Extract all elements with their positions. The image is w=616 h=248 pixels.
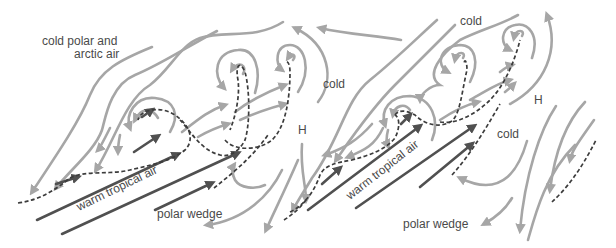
cold-flow-arrow — [96, 22, 283, 170]
cold-flow-arrow — [460, 141, 527, 185]
cold-flow-arrow — [240, 104, 285, 120]
cold-label: cold — [323, 77, 345, 91]
right-panel: cold H cold warm tropical air polar wedg… — [290, 14, 596, 240]
high-pressure-label: H — [534, 93, 543, 107]
cold-flow-arrow — [484, 198, 512, 224]
cold-flow-arrow — [233, 165, 265, 188]
warm-flow-arrow — [308, 126, 420, 210]
polar-wedge-label: polar wedge — [157, 207, 223, 221]
cold-flow-arrow — [387, 130, 389, 146]
cold-flow-arrow — [505, 84, 514, 92]
cold-flow-arrow — [235, 85, 285, 112]
cold-flow-arrow — [198, 124, 228, 137]
cyclone-swirl — [129, 98, 175, 132]
warm-flow-arrow — [401, 115, 410, 124]
cold-flow-arrow — [320, 28, 401, 40]
cold-flow-arrow — [470, 80, 510, 100]
cold-flow-arrow — [118, 135, 120, 152]
warm-flow-arrow — [134, 136, 158, 152]
cyclone-swirl — [503, 25, 535, 58]
cyclone-swirl — [455, 53, 464, 60]
air-mass-label: cold polar and — [42, 34, 117, 48]
cold-label: cold — [460, 14, 482, 28]
front-line — [395, 61, 467, 125]
cold-flow-arrow — [528, 145, 575, 240]
high-pressure-label: H — [298, 123, 307, 137]
air-mass-label: arctic air — [74, 47, 119, 61]
front-line — [452, 104, 500, 175]
cyclone-swirl — [288, 55, 294, 60]
cold-flow-arrow — [570, 120, 594, 160]
cyclone-swirl — [441, 45, 475, 82]
warm-flow-arrow — [322, 168, 340, 184]
cold-label: cold — [497, 127, 519, 141]
warm-air-label: warm tropical air — [73, 163, 159, 215]
polar-wedge-label: polar wedge — [403, 217, 469, 231]
cold-flow-arrow — [510, 15, 552, 104]
cold-flow-arrow — [520, 106, 556, 230]
frontal-wave-diagram: cold polar and arctic air cold H warm tr… — [0, 0, 616, 248]
cyclone-swirl — [514, 31, 523, 38]
cold-flow-arrow — [550, 102, 585, 190]
